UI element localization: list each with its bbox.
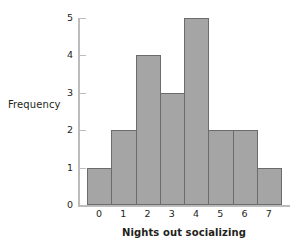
bar xyxy=(136,55,161,205)
bar xyxy=(111,130,136,205)
y-tick-label-text: 4 xyxy=(58,50,73,60)
y-axis-title: Frequency xyxy=(8,99,61,110)
y-tick-mark xyxy=(80,18,86,19)
x-tick-label: 4 xyxy=(184,209,208,219)
x-tick-label: 0 xyxy=(87,209,111,219)
y-tick-label: 0 xyxy=(58,200,73,210)
bar xyxy=(208,130,233,205)
y-axis-spine xyxy=(78,18,80,207)
bar xyxy=(257,168,282,205)
y-tick-label: 2 xyxy=(58,125,73,135)
x-tick-label: 6 xyxy=(233,209,257,219)
y-tick-mark xyxy=(80,130,86,131)
y-tick-label: 5 xyxy=(58,13,73,23)
bar-series xyxy=(87,18,281,205)
y-tick-label: 4 xyxy=(58,50,73,60)
y-tick-mark xyxy=(80,168,86,169)
y-tick-mark xyxy=(80,55,86,56)
x-tick-label: 7 xyxy=(257,209,281,219)
x-tick-label: 3 xyxy=(160,209,184,219)
x-tick-label: 2 xyxy=(136,209,160,219)
bar xyxy=(184,18,209,205)
bar xyxy=(160,93,185,205)
y-tick-label-text: 2 xyxy=(58,125,73,135)
x-axis-title: Nights out socializing xyxy=(78,227,290,238)
bar xyxy=(233,130,258,205)
y-tick-label-text: 0 xyxy=(58,200,73,210)
y-tick-label-text: 3 xyxy=(58,88,73,98)
y-tick-label-text: 5 xyxy=(58,13,73,23)
x-tick-label: 5 xyxy=(208,209,232,219)
y-tick-mark xyxy=(80,205,86,206)
y-tick-mark xyxy=(80,93,86,94)
x-axis-spine xyxy=(78,205,290,207)
bar xyxy=(87,168,112,205)
y-tick-label: 3 xyxy=(58,88,73,98)
histogram-chart: Frequency 012345 01234567 Nights out soc… xyxy=(0,0,300,247)
y-tick-label: 1 xyxy=(58,163,73,173)
x-tick-label: 1 xyxy=(111,209,135,219)
y-tick-label-text: 1 xyxy=(58,163,73,173)
